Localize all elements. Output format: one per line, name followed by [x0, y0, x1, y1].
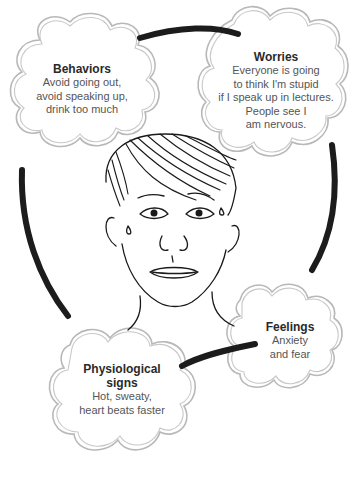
- face-illustration: [106, 134, 239, 330]
- node-title: Behaviors: [22, 62, 142, 76]
- node-title: Worries: [206, 50, 346, 64]
- node-body: Avoid going out, avoid speaking up, drin…: [22, 76, 142, 117]
- node-worries: Worries Everyone is going to think I'm s…: [206, 50, 346, 132]
- node-title: Physiological signs: [64, 362, 180, 390]
- node-body: Everyone is going to think I'm stupid if…: [206, 64, 346, 132]
- node-body: Hot, sweaty, heart beats faster: [64, 390, 180, 417]
- arrow-worries-to-feelings: [312, 145, 335, 270]
- node-behaviors: Behaviors Avoid going out, avoid speakin…: [22, 62, 142, 117]
- arrow-physiological-to-behaviors: [22, 170, 68, 316]
- node-body: Anxiety and fear: [250, 334, 330, 361]
- node-title: Feelings: [250, 320, 330, 334]
- node-feelings: Feelings Anxiety and fear: [250, 320, 330, 361]
- node-physiological: Physiological signs Hot, sweaty, heart b…: [64, 362, 180, 417]
